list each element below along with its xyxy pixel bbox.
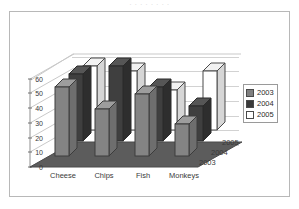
y-tick-30: 30 [27, 120, 43, 127]
y-tick-0: 0 [27, 164, 43, 171]
legend-label-2004: 2004 [257, 100, 274, 108]
chart-legend[interactable]: 2003 2004 2005 [243, 84, 278, 123]
legend-item-2005[interactable]: 2005 [246, 109, 274, 120]
legend-label-2003: 2003 [257, 89, 274, 97]
legend-item-2004[interactable]: 2004 [246, 98, 274, 109]
legend-item-2003[interactable]: 2003 [246, 87, 274, 98]
bar-cheese-2003[interactable] [55, 79, 81, 161]
screenshot-root: · · · · · · · · [0, 0, 299, 209]
bar-chips-2003[interactable] [95, 101, 121, 161]
z-tick-2003: 2003 [199, 159, 216, 167]
legend-swatch-2005 [246, 111, 254, 119]
bar-monkeys-2003[interactable] [175, 116, 201, 161]
y-tick-50: 50 [27, 90, 43, 97]
y-tick-20: 20 [27, 135, 43, 142]
x-tick-monkeys: Monkeys [158, 172, 210, 180]
x-tick-chips: Chips [82, 172, 126, 180]
y-tick-40: 40 [27, 105, 43, 112]
z-tick-2005: 2005 [222, 139, 239, 147]
bar-fish-2003[interactable] [135, 86, 161, 161]
y-tick-60: 60 [27, 76, 43, 83]
z-tick-2004: 2004 [211, 149, 228, 157]
page-bleed-text: · · · · · · · · [0, 0, 299, 9]
y-tick-10: 10 [27, 149, 43, 156]
y-axis-labels: 60 50 40 30 20 10 0 [23, 12, 43, 196]
legend-swatch-2004 [246, 100, 254, 108]
legend-swatch-2003 [246, 89, 254, 97]
x-tick-cheese: Cheese [40, 172, 86, 180]
legend-label-2005: 2005 [257, 111, 274, 119]
